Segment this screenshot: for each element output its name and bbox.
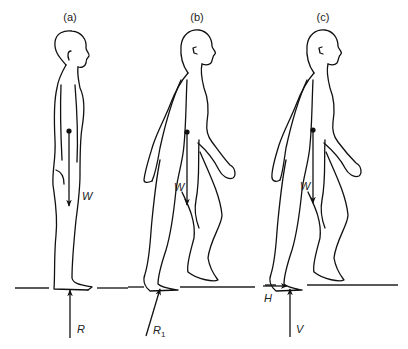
- standing-figure: [53, 31, 92, 290]
- panel-a: (a) W R: [15, 11, 128, 338]
- weight-label: W: [82, 190, 94, 202]
- walking-figure: [144, 30, 235, 291]
- panel-a-label: (a): [63, 11, 76, 23]
- horizontal-force-label: H: [264, 292, 272, 304]
- weight-label: W: [300, 180, 312, 192]
- weight-label: W: [174, 181, 186, 193]
- gait-force-diagram: (a) W R (b): [0, 0, 408, 349]
- walking-figure: [270, 30, 361, 291]
- panel-b: (b) W R1: [128, 11, 255, 339]
- panel-c: (c) W H V: [263, 11, 398, 337]
- reaction-label: R: [77, 323, 85, 335]
- panel-c-label: (c): [317, 11, 330, 23]
- vertical-force-label: V: [296, 323, 305, 335]
- panel-b-label: (b): [190, 11, 203, 23]
- reaction-label: R1: [153, 324, 166, 339]
